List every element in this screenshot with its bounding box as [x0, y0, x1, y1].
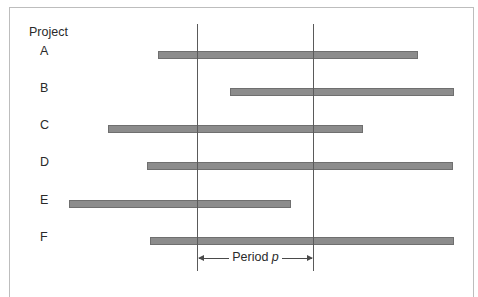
- project-bar-c: [108, 125, 363, 133]
- project-bar-d: [147, 162, 453, 170]
- period-label: Period p: [197, 250, 314, 264]
- project-label-f: F: [40, 230, 48, 244]
- project-label-c: C: [40, 118, 49, 132]
- period-variable: p: [272, 250, 279, 264]
- project-label-b: B: [40, 81, 48, 95]
- project-bar-e: [69, 200, 291, 208]
- project-bar-f: [150, 237, 454, 245]
- project-label-e: E: [40, 193, 48, 207]
- project-label-d: D: [40, 155, 49, 169]
- period-end-line: [313, 24, 314, 271]
- period-start-line: [197, 24, 198, 271]
- axis-title: Project: [29, 25, 68, 39]
- project-bar-b: [230, 88, 454, 96]
- period-annotation: Period p: [197, 250, 314, 266]
- project-label-a: A: [40, 44, 48, 58]
- period-label-text: Period: [232, 250, 268, 264]
